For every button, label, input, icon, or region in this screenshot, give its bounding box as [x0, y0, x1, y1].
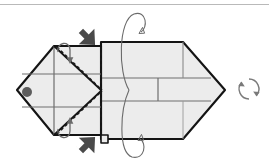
- reference-dot: [22, 87, 32, 97]
- origami-diagram: [0, 0, 269, 167]
- bottom-small-tab: [101, 135, 108, 143]
- origami-illustration: [0, 0, 269, 167]
